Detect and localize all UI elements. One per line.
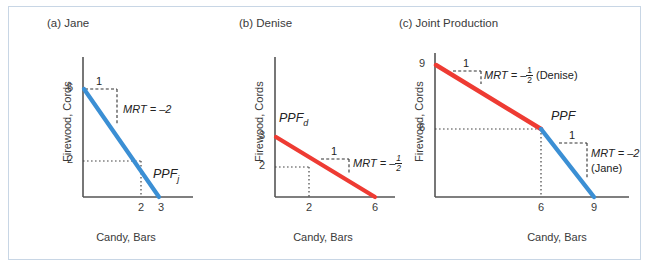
panel-a-x-axis-label: Candy, Bars <box>61 231 191 243</box>
panel-b-ppf-text: PPF <box>279 111 303 125</box>
panel-a-ytick-2: 2 <box>57 153 73 165</box>
panel-c-mrt-denise-prefix: MRT = – <box>484 69 526 81</box>
panel-a-ytick-6: 6 <box>57 81 73 93</box>
panel-b-ppf-label: PPFd <box>279 111 308 128</box>
panel-c-x-axis-label: Candy, Bars <box>487 231 627 243</box>
panel-b-xtick-2: 2 <box>301 201 317 213</box>
panel-c-ppf-jane-segment <box>541 129 594 197</box>
panel-b-title: (b) Denise <box>239 17 292 29</box>
panel-c-xtick-6: 6 <box>533 201 549 213</box>
panel-b-rise-label: 1 <box>331 145 337 157</box>
panel-a-xtick-3: 3 <box>153 201 169 213</box>
panel-c-rise-label-bottom: 1 <box>569 129 575 141</box>
panel-a-rise-label: 1 <box>96 75 102 87</box>
panel-c-mrt-denise-suffix: (Denise) <box>536 69 578 81</box>
panel-b-x-axis-label: Candy, Bars <box>253 231 393 243</box>
panel-c-mrt-jane-who: (Jane) <box>591 162 622 174</box>
panel-c-ppf-label: PPF <box>551 109 575 123</box>
panel-a-title: (a) Jane <box>47 17 89 29</box>
figure-frame: (a) Jane Firewood, Cords 6 2 2 3 1 M <box>8 6 641 260</box>
panel-c-mrt-denise-denominator: 2 <box>526 76 533 85</box>
panel-c-ytick-6: 6 <box>409 121 425 133</box>
panel-c-mrt-jane-annotation: MRT = –2 <box>591 147 639 159</box>
panel-b-ppf-subscript: d <box>303 118 308 128</box>
panel-a-ppf-subscript: j <box>177 174 179 184</box>
panel-c-plot: 9 6 6 9 1 MRT = –12(Denise) PPF 1 MRT = … <box>423 51 638 221</box>
panel-denise: (b) Denise Firewood, Cords 3 2 2 6 1 <box>201 7 391 259</box>
panel-b-ytick-2: 2 <box>249 159 265 171</box>
panel-c-xtick-9: 9 <box>586 201 602 213</box>
panel-jane: (a) Jane Firewood, Cords 6 2 2 3 1 M <box>9 7 214 259</box>
panel-c-rise-label-top: 1 <box>463 57 469 69</box>
panel-a-mrt-annotation: MRT = –2 <box>123 103 171 115</box>
panel-c-mrt-denise-annotation: MRT = –12(Denise) <box>484 67 578 86</box>
panel-c-ytick-9: 9 <box>409 57 425 69</box>
panel-a-ppf-label: PPFj <box>153 167 179 184</box>
panel-a-svg <box>71 55 201 217</box>
panel-c-title: (c) Joint Production <box>399 17 498 29</box>
panel-b-ytick-3: 3 <box>249 129 265 141</box>
panel-c-mrt-denise-fraction: 12 <box>526 66 533 85</box>
panel-a-xtick-2: 2 <box>133 201 149 213</box>
panel-a-ppf-text: PPF <box>153 167 177 181</box>
panel-a-plot: 6 2 2 3 1 MRT = –2 PPFj <box>71 55 201 217</box>
panel-joint-production: (c) Joint Production Firewood, Cords <box>377 7 642 259</box>
